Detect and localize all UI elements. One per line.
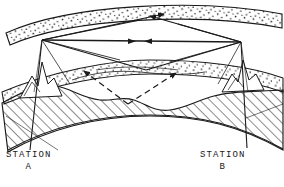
station-b-label: STATION B xyxy=(200,150,246,172)
direct-path-arrow-right xyxy=(128,39,136,44)
diagram-canvas: STATION A STATION B xyxy=(0,0,284,187)
station-b-letter: B xyxy=(200,162,246,172)
station-b-name: STATION xyxy=(200,150,246,160)
station-a-letter: A xyxy=(6,162,52,172)
station-a-name: STATION xyxy=(6,150,52,160)
station-a-label: STATION A xyxy=(6,150,52,172)
direct-line-of-sight-path xyxy=(42,39,241,45)
direct-path-arrow-left xyxy=(144,39,152,44)
